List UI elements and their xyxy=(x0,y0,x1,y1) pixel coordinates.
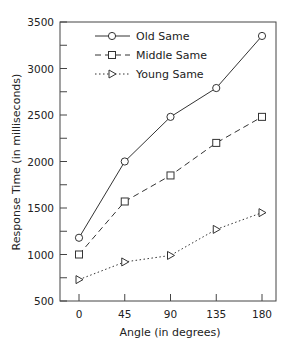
circle-marker xyxy=(258,32,265,39)
legend-label: Old Same xyxy=(136,30,190,43)
circle-marker xyxy=(121,158,128,165)
triangle-marker xyxy=(122,258,129,266)
triangle-marker xyxy=(168,251,175,259)
square-marker xyxy=(109,52,116,59)
y-axis-label: Response Time (in milliseconds) xyxy=(10,74,23,251)
triangle-marker xyxy=(213,225,220,233)
x-tick-label: 135 xyxy=(206,308,226,320)
circle-marker xyxy=(213,84,220,91)
x-tick-label: 90 xyxy=(164,308,177,320)
x-tick-label: 45 xyxy=(118,308,131,320)
x-axis: 04590135180 xyxy=(76,294,272,320)
square-marker xyxy=(213,139,220,146)
y-tick-label: 3500 xyxy=(27,16,54,28)
square-marker xyxy=(121,198,128,205)
triangle-marker xyxy=(109,70,116,78)
series-line xyxy=(79,117,262,255)
x-tick-label: 180 xyxy=(252,308,272,320)
legend-label: Middle Same xyxy=(136,49,207,62)
circle-marker xyxy=(108,32,115,39)
circle-marker xyxy=(75,234,82,241)
y-tick-label: 1500 xyxy=(27,202,54,214)
y-tick-label: 1000 xyxy=(27,249,54,261)
series-middle-same xyxy=(76,113,266,258)
square-marker xyxy=(76,251,83,258)
y-tick-label: 500 xyxy=(34,295,54,307)
y-tick-label: 2000 xyxy=(27,156,54,168)
y-tick-label: 3000 xyxy=(27,63,54,75)
series-old-same xyxy=(75,32,265,241)
line-chart: 500100015002000250030003500 04590135180 … xyxy=(0,0,289,348)
series-line xyxy=(79,36,262,238)
square-marker xyxy=(167,172,174,179)
y-axis: 500100015002000250030003500 xyxy=(27,16,67,307)
circle-marker xyxy=(167,113,174,120)
square-marker xyxy=(259,113,266,120)
legend-label: Young Same xyxy=(135,68,204,81)
series-young-same xyxy=(76,209,266,284)
triangle-marker xyxy=(259,209,266,217)
x-tick-label: 0 xyxy=(76,308,83,320)
legend: Old SameMiddle SameYoung Same xyxy=(95,30,207,81)
triangle-marker xyxy=(76,276,83,284)
y-tick-label: 2500 xyxy=(27,109,54,121)
x-axis-label: Angle (in degrees) xyxy=(119,326,220,339)
